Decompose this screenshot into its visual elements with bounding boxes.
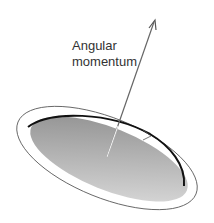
angular-momentum-label: Angular momentum [72, 38, 137, 70]
label-line-1: Angular [72, 38, 137, 54]
angular-momentum-diagram [0, 0, 214, 223]
label-line-2: momentum [72, 54, 137, 70]
